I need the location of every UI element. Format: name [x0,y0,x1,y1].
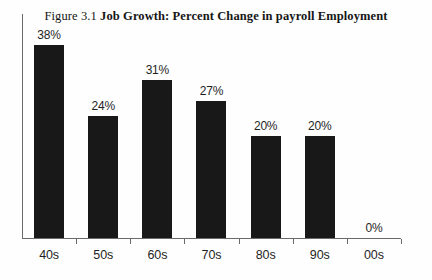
x-axis-category-label: 70s [184,248,238,262]
x-axis-tick [239,239,240,244]
bar-value-label: 20% [254,119,277,133]
bar-group: 31% [130,14,184,238]
x-axis-tick [184,239,185,244]
x-axis-category-label: 80s [239,248,293,262]
bar-group: 38% [22,14,76,238]
bar-value-label: 20% [308,119,331,133]
x-axis-line [22,238,401,239]
bar-value-label: 27% [200,84,223,98]
x-axis-tick [401,239,402,244]
bar-value-label: 24% [91,99,114,113]
x-axis-tick [76,239,77,244]
x-axis-category-label: 40s [22,248,76,262]
bar-group: 20% [239,14,293,238]
bar[interactable] [305,136,335,238]
bar-group: 0% [347,14,401,238]
x-axis-tick [347,239,348,244]
bar[interactable] [196,101,226,238]
x-axis-tick [293,239,294,244]
bar-group: 20% [293,14,347,238]
x-axis-tick [130,239,131,244]
bar[interactable] [34,45,64,238]
x-axis-category-label: 60s [130,248,184,262]
bar-group: 27% [184,14,238,238]
x-axis-category-label: 50s [76,248,130,262]
bar-value-label: 38% [37,28,60,42]
x-axis-category-label: 00s [347,248,401,262]
bar[interactable] [251,136,281,238]
chart-figure: Figure 3.1 Job Growth: Percent Change in… [0,0,432,280]
bar-value-label: 31% [146,63,169,77]
bar-value-label: 0% [365,221,382,235]
x-axis-category-label: 90s [293,248,347,262]
bar[interactable] [88,116,118,238]
bar-group: 24% [76,14,130,238]
bar[interactable] [142,80,172,238]
